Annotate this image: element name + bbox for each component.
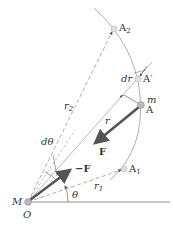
label-dtheta: dθ <box>41 137 53 147</box>
label-r1: r1 <box>94 181 103 193</box>
label-r2: r2 <box>64 101 73 113</box>
label-dr: dr <box>121 74 132 84</box>
label-A1: A1 <box>129 164 141 176</box>
label-theta: θ <box>72 190 78 200</box>
point-A-prime <box>135 76 141 82</box>
label-A: A <box>146 105 153 115</box>
point-A <box>138 102 145 109</box>
point-A1 <box>121 166 127 172</box>
point-A2 <box>111 26 117 32</box>
r-dimension-arrow <box>120 95 124 97</box>
point-O <box>25 199 32 206</box>
force-F-arrow <box>95 107 139 143</box>
label-A-prime: A′ <box>143 74 153 84</box>
label-F: F <box>99 147 106 157</box>
label-M: M <box>12 197 22 207</box>
orbit-force-diagram: A2 A′ dr m A r2 r F dθ −F A1 r1 θ M O <box>0 0 173 225</box>
label-O: O <box>23 210 31 220</box>
label-A2: A2 <box>119 23 131 35</box>
label-negF: −F <box>75 164 90 174</box>
radius-r2-line <box>28 32 112 202</box>
label-r: r <box>105 116 110 126</box>
